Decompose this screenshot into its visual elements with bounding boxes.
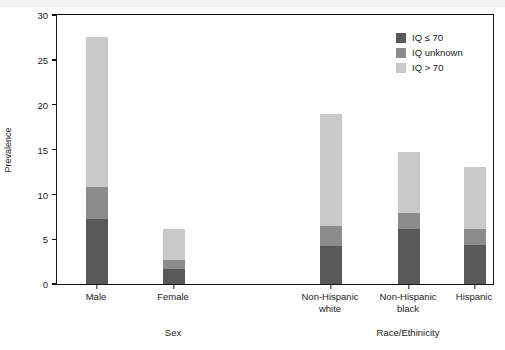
- chart-legend: IQ ≤ 70IQ unknownIQ > 70: [396, 30, 463, 75]
- legend-label: IQ unknown: [412, 47, 463, 58]
- bar-non-hispanic-white: [320, 114, 342, 284]
- bar-segment: [320, 246, 342, 284]
- bar-segment: [398, 152, 420, 213]
- legend-item: IQ ≤ 70: [396, 30, 463, 45]
- bar-segment: [320, 226, 342, 247]
- bar-segment: [464, 167, 486, 230]
- y-axis-tick-label: 15: [37, 145, 48, 155]
- y-axis-title-text: Prevalence: [3, 127, 13, 172]
- y-axis-tick-mark: [52, 14, 57, 15]
- bar-hispanic: [464, 167, 486, 284]
- y-axis-tick-label: 30: [37, 11, 48, 21]
- bar-segment: [163, 229, 185, 259]
- legend-label: IQ ≤ 70: [412, 32, 443, 43]
- legend-item: IQ > 70: [396, 60, 463, 75]
- x-axis-tick-mark: [408, 284, 409, 289]
- y-axis-tick-mark: [52, 239, 57, 240]
- top-margin-band: [0, 0, 505, 7]
- y-axis-tick-label: 20: [37, 100, 48, 110]
- y-axis-tick-mark: [52, 104, 57, 105]
- bar-segment: [86, 37, 108, 187]
- y-axis-tick-mark: [52, 149, 57, 150]
- x-axis-tick-mark: [173, 284, 174, 289]
- y-axis-tick-label: 25: [37, 56, 48, 66]
- bar-segment: [163, 269, 185, 284]
- legend-swatch: [396, 63, 406, 73]
- bar-segment: [86, 187, 108, 219]
- bar-female: [163, 229, 185, 284]
- bar-segment: [320, 114, 342, 226]
- bar-segment: [398, 229, 420, 284]
- y-axis-tick-mark: [52, 59, 57, 60]
- x-axis-tick-mark: [474, 284, 475, 289]
- y-axis-tick-mark: [52, 194, 57, 195]
- legend-label: IQ > 70: [412, 62, 443, 73]
- y-axis-tick-label: 5: [43, 235, 48, 245]
- bar-segment: [464, 229, 486, 245]
- x-axis-tick-mark: [96, 284, 97, 289]
- bar-segment: [398, 213, 420, 229]
- legend-item: IQ unknown: [396, 45, 463, 60]
- legend-swatch: [396, 33, 406, 43]
- chart-figure: Prevalence 051015202530 IQ ≤ 70IQ unknow…: [0, 0, 505, 350]
- y-axis-tick-label: 0: [43, 280, 48, 290]
- x-axis-tick-mark: [330, 284, 331, 289]
- bar-segment: [163, 260, 185, 269]
- bar-male: [86, 37, 108, 284]
- group-label: Race/Ethinicity: [333, 327, 483, 338]
- y-axis-tick-label: 10: [37, 190, 48, 200]
- bar-segment: [464, 245, 486, 284]
- bar-segment: [86, 219, 108, 284]
- x-axis-tick-label: Hispanic: [419, 291, 505, 303]
- y-axis-title: Prevalence: [0, 95, 16, 205]
- legend-swatch: [396, 48, 406, 58]
- bar-non-hispanic-black: [398, 152, 420, 284]
- group-label: Sex: [98, 327, 248, 338]
- x-axis-tick-label: Female: [118, 291, 228, 303]
- y-axis-tick-mark: [52, 283, 57, 284]
